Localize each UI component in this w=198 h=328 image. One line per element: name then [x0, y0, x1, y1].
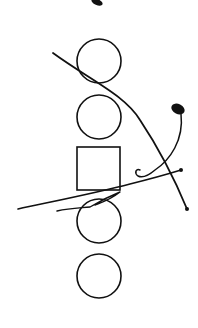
circle-2 [77, 95, 121, 139]
end-dot-diagonal [185, 207, 189, 211]
circle-1 [77, 39, 121, 83]
circle-4 [77, 254, 121, 298]
end-dot-line [179, 168, 183, 172]
sketch-svg [0, 0, 198, 328]
square-1 [77, 147, 120, 190]
circle-3 [77, 199, 121, 243]
blob-top-right [170, 102, 187, 117]
blob-top [90, 0, 103, 7]
sketch-diagram [0, 0, 198, 328]
